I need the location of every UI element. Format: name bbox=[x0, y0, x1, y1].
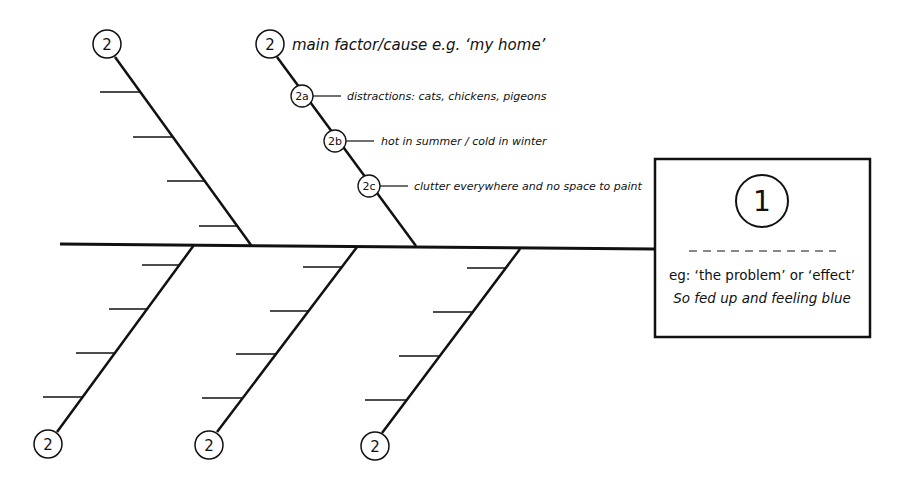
sub-cause-text: distractions: cats, chickens, pigeons bbox=[347, 90, 547, 103]
main-cause-label: main factor/cause e.g. ‘my home’ bbox=[292, 36, 546, 54]
sub-cause-text: hot in summer / cold in winter bbox=[381, 135, 548, 148]
bone-upper-right: 2 main factor/cause e.g. ‘my home’ 2a di… bbox=[256, 30, 643, 246]
sub-cause-number: 2c bbox=[362, 180, 375, 193]
effect-box: 1 eg: ‘the problem’ or ‘effect’ So fed u… bbox=[655, 159, 870, 337]
bone-lower-left: 2 bbox=[34, 245, 194, 458]
cause-number: 2 bbox=[370, 438, 380, 456]
fishbone-diagram: 1 eg: ‘the problem’ or ‘effect’ So fed u… bbox=[0, 0, 900, 481]
cause-number: 2 bbox=[43, 436, 53, 454]
bone-lower-middle: 2 bbox=[195, 247, 357, 459]
sub-cause-text: clutter everywhere and no space to paint bbox=[414, 180, 643, 193]
effect-number: 1 bbox=[753, 185, 771, 218]
effect-example: So fed up and feeling blue bbox=[673, 290, 851, 306]
sub-cause-number: 2a bbox=[295, 90, 309, 103]
bone-upper-left: 2 bbox=[93, 30, 251, 245]
effect-description: eg: ‘the problem’ or ‘effect’ bbox=[669, 267, 855, 283]
sub-cause-number: 2b bbox=[328, 135, 342, 148]
cause-number: 2 bbox=[265, 36, 275, 54]
cause-number: 2 bbox=[204, 437, 214, 455]
cause-number: 2 bbox=[102, 36, 112, 54]
bone-lower-right: 2 bbox=[361, 249, 520, 460]
